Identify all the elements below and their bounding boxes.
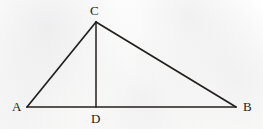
vertex-label-d: D — [91, 112, 100, 125]
segment-ac — [27, 22, 96, 107]
vertex-label-b: B — [243, 100, 252, 113]
segment-cb — [96, 22, 236, 107]
geometry-figure: A B C D — [0, 0, 263, 129]
triangle-diagram-svg — [0, 0, 263, 129]
vertex-label-a: A — [12, 100, 21, 113]
vertex-label-c: C — [90, 4, 99, 17]
